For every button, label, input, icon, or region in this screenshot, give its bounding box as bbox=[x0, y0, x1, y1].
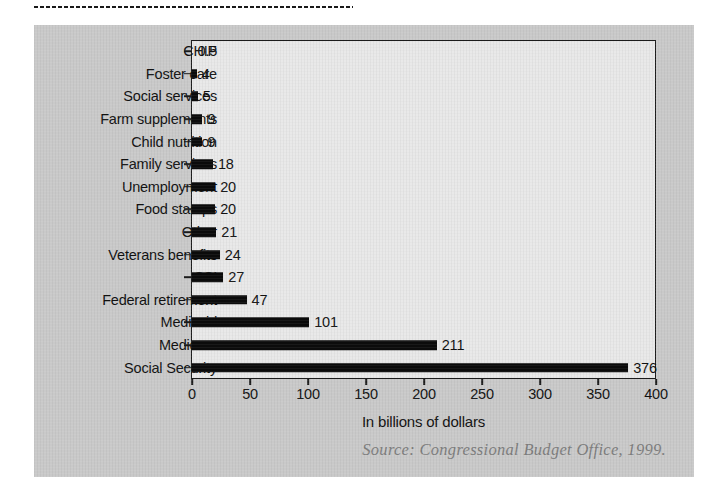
bar bbox=[192, 205, 215, 215]
bar-value-label: 24 bbox=[225, 247, 241, 263]
y-axis-tick bbox=[184, 254, 191, 256]
bar-row: SSI27 bbox=[34, 266, 694, 289]
x-axis-tick-label: 50 bbox=[242, 386, 258, 402]
x-axis-tick-label: 400 bbox=[644, 386, 668, 402]
bar-value-label: 47 bbox=[252, 292, 268, 308]
x-axis-tick bbox=[249, 379, 251, 385]
x-axis-tick-label: 0 bbox=[188, 386, 196, 402]
bar-row: Family services18 bbox=[34, 153, 694, 176]
x-axis-tick bbox=[307, 379, 309, 385]
bar-value-label: 27 bbox=[228, 269, 244, 285]
bar-value-label: 5 bbox=[203, 88, 211, 104]
bar bbox=[192, 273, 223, 283]
bar bbox=[192, 69, 197, 79]
bar-value-label: 4 bbox=[202, 66, 210, 82]
x-axis-tick bbox=[597, 379, 599, 385]
y-axis-tick bbox=[184, 96, 191, 98]
bar-row: Federal retirement47 bbox=[34, 289, 694, 312]
bar-value-label: 20 bbox=[220, 201, 236, 217]
y-axis-tick bbox=[184, 344, 191, 346]
y-axis-tick bbox=[184, 277, 191, 279]
bar-row: Social services5 bbox=[34, 85, 694, 108]
bar-row: Veterans benefits24 bbox=[34, 243, 694, 266]
bar-row: Foster care4 bbox=[34, 63, 694, 86]
bar bbox=[192, 160, 213, 170]
y-axis-tick bbox=[184, 51, 191, 53]
y-axis-tick bbox=[184, 299, 191, 301]
bar-value-label: 20 bbox=[220, 179, 236, 195]
x-axis-tick bbox=[539, 379, 541, 385]
bar-row: Child nutrition9 bbox=[34, 130, 694, 153]
bar-category-label: Child nutrition bbox=[131, 134, 217, 150]
bar bbox=[192, 92, 198, 102]
y-axis-tick bbox=[184, 164, 191, 166]
bar bbox=[192, 137, 202, 147]
bar-rows: CHIP0.5Foster care4Social services5Farm … bbox=[34, 40, 694, 379]
x-axis-tick-label: 300 bbox=[528, 386, 552, 402]
bar-value-label: 0.5 bbox=[198, 43, 218, 59]
bar-row: Medicare211 bbox=[34, 334, 694, 357]
x-axis-tick bbox=[481, 379, 483, 385]
y-axis-tick bbox=[184, 118, 191, 120]
bar bbox=[192, 295, 247, 305]
x-axis-tick-label: 150 bbox=[354, 386, 378, 402]
bar bbox=[192, 182, 215, 192]
bar-row: Medicaid101 bbox=[34, 311, 694, 334]
y-axis-tick bbox=[184, 231, 191, 233]
x-axis-title: In billions of dollars bbox=[191, 413, 656, 430]
bar-row: Food stamps20 bbox=[34, 198, 694, 221]
x-axis-tick-label: 200 bbox=[412, 386, 436, 402]
bar bbox=[192, 250, 220, 260]
bar bbox=[192, 363, 628, 373]
y-axis-tick bbox=[184, 209, 191, 211]
bar-value-label: 101 bbox=[314, 314, 338, 330]
x-axis-tick bbox=[365, 379, 367, 385]
x-axis-tick bbox=[423, 379, 425, 385]
bar-row: CHIP0.5 bbox=[34, 40, 694, 63]
bar bbox=[192, 114, 202, 124]
x-axis-tick-label: 250 bbox=[470, 386, 494, 402]
bar bbox=[192, 340, 437, 350]
bar-value-label: 376 bbox=[633, 360, 657, 376]
y-axis-tick bbox=[184, 322, 191, 324]
y-axis-tick bbox=[184, 73, 191, 75]
bar-row: Other21 bbox=[34, 221, 694, 244]
bar-row: Social Security376 bbox=[34, 356, 694, 379]
bar-value-label: 9 bbox=[207, 134, 215, 150]
x-axis-tick bbox=[191, 379, 193, 385]
dotted-rule-divider bbox=[33, 5, 353, 9]
bar-value-label: 21 bbox=[221, 224, 237, 240]
y-axis-tick bbox=[184, 186, 191, 188]
bar-row: Farm supplements9 bbox=[34, 108, 694, 131]
x-axis-tick-label: 350 bbox=[586, 386, 610, 402]
bar-value-label: 18 bbox=[218, 156, 234, 172]
bar-chart: CHIP0.5Foster care4Social services5Farm … bbox=[34, 25, 694, 477]
figure-panel: CHIP0.5Foster care4Social services5Farm … bbox=[34, 25, 694, 477]
bar-row: Unemployment20 bbox=[34, 176, 694, 199]
y-axis-tick bbox=[184, 141, 191, 143]
y-axis-tick bbox=[184, 367, 191, 369]
source-note: Source: Congressional Budget Office, 199… bbox=[34, 440, 666, 460]
bar-value-label: 211 bbox=[442, 337, 465, 353]
x-axis-tick-label: 100 bbox=[296, 386, 320, 402]
bar-value-label: 9 bbox=[207, 111, 215, 127]
bar bbox=[192, 227, 216, 237]
bar bbox=[192, 318, 309, 328]
x-axis-tick bbox=[655, 379, 657, 385]
